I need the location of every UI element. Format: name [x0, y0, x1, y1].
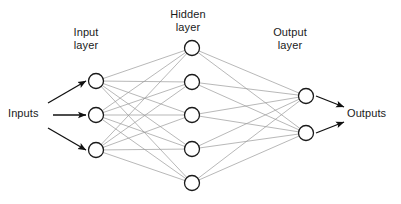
hidden-layer-label: Hidden layer [152, 8, 224, 33]
hidden-node-3 [185, 108, 200, 123]
connection-hidden3-output0 [199, 99, 299, 146]
connection-hidden0-output0 [199, 51, 299, 93]
connection-hidden2-output1 [199, 116, 298, 132]
connection-input2-hidden0 [101, 53, 187, 144]
inputs-label: Inputs [8, 107, 39, 120]
output-layer-label: Output layer [258, 26, 322, 51]
outputs-label: Outputs [347, 107, 386, 120]
connection-input2-hidden3 [103, 149, 184, 150]
output-node-1 [299, 89, 314, 104]
input-layer-label: Input layer [58, 26, 114, 51]
hidden-node-1 [185, 41, 200, 56]
connection-hidden3-output1 [199, 134, 298, 148]
connection-hidden2-output0 [199, 97, 298, 114]
hidden-node-2 [185, 75, 200, 90]
connection-hidden1-output1 [199, 85, 299, 130]
connection-input0-hidden0 [103, 50, 185, 78]
hidden-node-5 [185, 176, 200, 191]
neural-network-diagram: Input layer Hidden layer Output layer In… [0, 0, 401, 204]
output-arrow-2 [316, 122, 344, 133]
connection-hidden1-output0 [199, 83, 298, 95]
connections-group [101, 50, 300, 180]
hidden-node-4 [185, 142, 200, 157]
connection-input2-hidden4 [103, 152, 185, 180]
input-node-2 [89, 108, 104, 123]
connection-hidden4-output1 [199, 136, 299, 180]
output-arrow-1 [316, 96, 344, 107]
nodes-group [89, 41, 314, 191]
connection-hidden4-output0 [198, 101, 300, 179]
input-node-3 [89, 143, 104, 158]
input-node-1 [89, 74, 104, 89]
input-arrow-3 [48, 128, 86, 150]
input-arrow-1 [48, 81, 86, 103]
connection-hidden0-output1 [198, 52, 300, 128]
connection-input2-hidden1 [102, 86, 186, 145]
output-node-2 [299, 126, 314, 141]
